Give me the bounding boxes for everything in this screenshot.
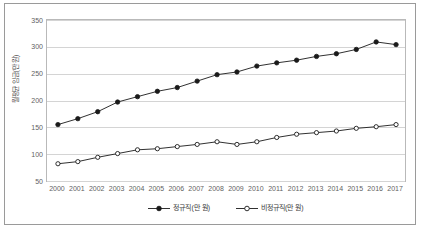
data-point-marker — [115, 100, 119, 104]
data-point-marker — [275, 61, 279, 65]
data-point-marker — [235, 142, 239, 146]
data-point-marker — [215, 140, 219, 144]
data-point-marker — [255, 64, 259, 68]
data-point-marker — [354, 47, 358, 51]
legend-filled-circle-icon — [148, 204, 170, 213]
data-point-marker — [135, 94, 139, 98]
series-layer — [47, 20, 407, 183]
y-tick-label: 250 — [13, 70, 43, 77]
data-point-marker — [175, 144, 179, 148]
legend-hollow-circle-icon — [236, 204, 258, 213]
legend-entry[interactable]: 정규직(만 원) — [148, 204, 210, 213]
data-point-marker — [334, 52, 338, 56]
data-point-marker — [314, 131, 318, 135]
legend-label: 비정규직(만 원) — [261, 204, 304, 212]
y-tick-label: 350 — [13, 17, 43, 24]
data-point-marker — [195, 142, 199, 146]
x-tick-label: 2017 — [382, 185, 408, 193]
data-point-marker — [275, 135, 279, 139]
series-line — [58, 42, 396, 125]
data-point-marker — [374, 125, 378, 129]
data-point-marker — [394, 122, 398, 126]
data-point-marker — [255, 140, 259, 144]
data-point-marker — [314, 54, 318, 58]
y-tick-label: 200 — [13, 97, 43, 104]
x-axis-tick-labels: 2000200120022003200420052006200720082009… — [46, 185, 406, 197]
legend-entry[interactable]: 비정규직(만 원) — [236, 204, 304, 213]
plot-area — [46, 19, 406, 182]
y-tick-label: 300 — [13, 43, 43, 50]
data-point-marker — [294, 58, 298, 62]
data-point-marker — [96, 155, 100, 159]
data-point-marker — [195, 79, 199, 83]
data-point-marker — [155, 147, 159, 151]
data-point-marker — [56, 122, 60, 126]
y-tick-label: 100 — [13, 151, 43, 158]
y-axis-tick-labels: 50100150200250300350 — [10, 19, 43, 182]
y-tick-label: 50 — [13, 178, 43, 185]
y-tick-label: 150 — [13, 124, 43, 131]
data-point-marker — [135, 148, 139, 152]
data-point-marker — [175, 85, 179, 89]
data-point-marker — [374, 40, 378, 44]
data-point-marker — [215, 72, 219, 76]
data-point-marker — [394, 42, 398, 46]
data-point-marker — [334, 129, 338, 133]
data-point-marker — [76, 160, 80, 164]
data-point-marker — [116, 151, 120, 155]
chart-figure: 월평균 임금(만 원) 50100150200250300350 2000200… — [4, 3, 416, 225]
data-point-marker — [354, 126, 358, 130]
chart-legend: 정규직(만 원)비정규직(만 원) — [46, 201, 406, 215]
data-point-marker — [96, 110, 100, 114]
series-line — [58, 125, 396, 164]
legend-label: 정규직(만 원) — [173, 204, 210, 212]
data-point-marker — [56, 162, 60, 166]
data-point-marker — [295, 132, 299, 136]
data-point-marker — [155, 89, 159, 93]
data-point-marker — [235, 70, 239, 74]
data-point-marker — [76, 116, 80, 120]
